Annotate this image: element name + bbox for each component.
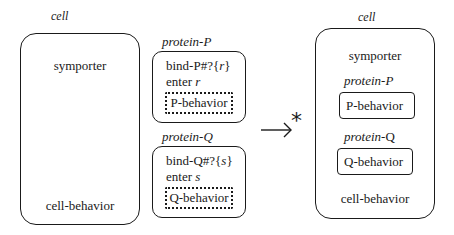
right-protein-q-label: protein-Q bbox=[344, 129, 395, 145]
left-cell-label: cell bbox=[51, 9, 68, 24]
bind-prefix: bind-P#?{ bbox=[166, 58, 219, 73]
left-symporter-label: symporter bbox=[20, 58, 140, 74]
enter-var: r bbox=[195, 74, 200, 89]
protein-suffix: Q bbox=[385, 129, 394, 144]
right-p-behavior-label: P-behavior bbox=[346, 98, 403, 114]
protein-p-bind-action: bind-P#?{r} bbox=[166, 58, 231, 74]
reflexive-transitive-star: * bbox=[291, 108, 302, 133]
right-q-behavior-label: Q-behavior bbox=[344, 154, 403, 170]
bind-prefix: bind-Q#?{ bbox=[166, 153, 221, 168]
bind-suffix: } bbox=[224, 58, 230, 73]
q-behavior-dotted-box: Q-behavior bbox=[165, 187, 233, 209]
right-cell-label: cell bbox=[358, 10, 375, 25]
right-p-behavior-box: P-behavior bbox=[339, 92, 415, 119]
right-q-behavior-box: Q-behavior bbox=[337, 148, 413, 175]
protein-suffix: P bbox=[385, 73, 393, 88]
q-behavior-label: Q-behavior bbox=[169, 190, 228, 206]
enter-prefix: enter bbox=[166, 74, 195, 89]
p-behavior-label: P-behavior bbox=[170, 95, 227, 111]
protein-q-enter-action: enter s bbox=[166, 169, 200, 185]
protein-q-label: protein-Q bbox=[162, 129, 213, 145]
bind-suffix: } bbox=[226, 153, 232, 168]
enter-var: s bbox=[195, 169, 200, 184]
right-protein-p-label: protein-P bbox=[344, 73, 393, 89]
protein-q-bind-action: bind-Q#?{s} bbox=[166, 153, 233, 169]
protein-p-label: protein-P bbox=[162, 34, 211, 50]
right-symporter-label: symporter bbox=[315, 48, 435, 64]
right-cell-behavior-label: cell-behavior bbox=[315, 191, 435, 207]
protein-p-enter-action: enter r bbox=[166, 74, 200, 90]
enter-prefix: enter bbox=[166, 169, 195, 184]
protein-prefix: protein- bbox=[344, 129, 385, 144]
protein-prefix: protein- bbox=[344, 73, 385, 88]
left-cell-behavior-label: cell-behavior bbox=[20, 198, 140, 214]
p-behavior-dotted-box: P-behavior bbox=[165, 92, 233, 114]
reduction-arrow-icon bbox=[260, 118, 294, 138]
